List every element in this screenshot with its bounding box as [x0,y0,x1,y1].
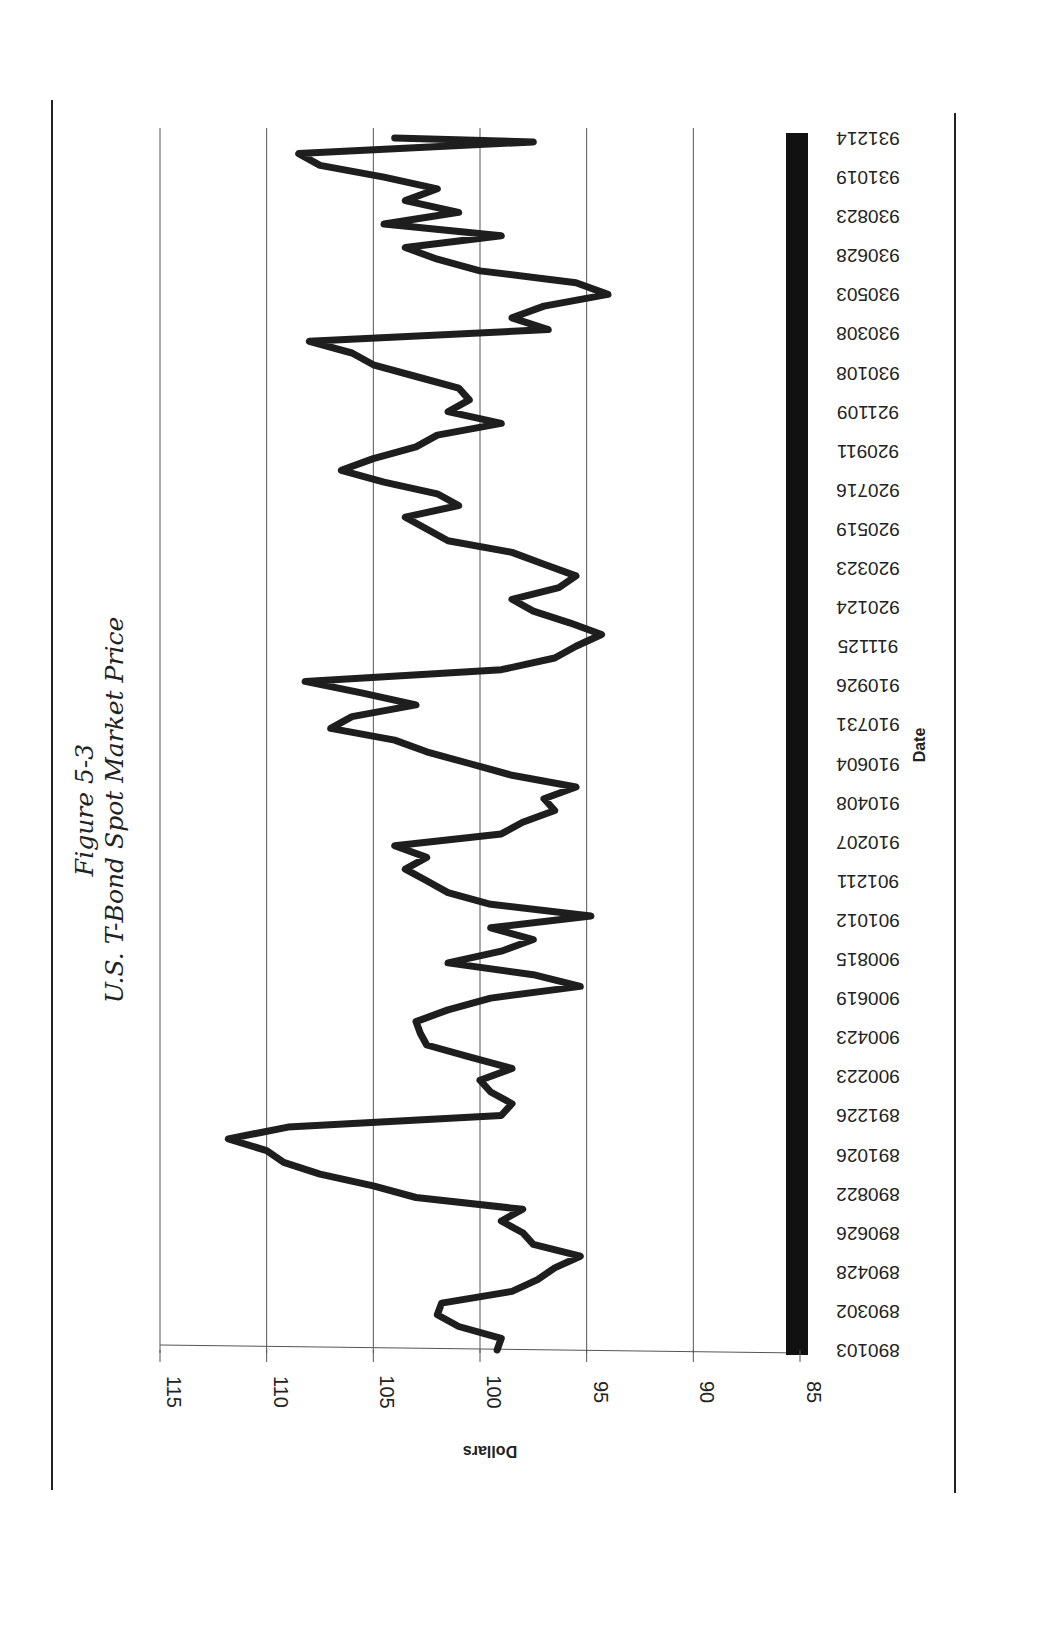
date-tick-label: 890103 [836,1340,899,1361]
y-tick-label: 100 [483,1375,505,1408]
y-tick-label: 105 [376,1375,398,1408]
date-tick-label: 901211 [837,871,899,892]
date-tick-label: 890428 [836,1262,899,1283]
date-tick-label: 920519 [836,519,899,540]
date-tick-label: 921109 [837,402,899,423]
y-tick-label: 85 [803,1381,825,1403]
date-tick-label: 910926 [836,675,899,696]
date-tick-label: 890626 [836,1223,899,1244]
date-axis-bar [786,133,808,1355]
date-tick-label: 920716 [836,480,899,501]
line-chart: 8901038903028904288906268908228910268912… [0,0,1041,1651]
dollars-axis: 115110105100959085 [160,1350,825,1409]
date-tick-label: 920911 [837,441,899,462]
date-tick-label: 891226 [836,1105,899,1126]
date-tick-label: 890822 [836,1184,899,1205]
date-tick-label: 910731 [836,714,899,735]
date-tick-label: 891026 [836,1145,899,1166]
date-tick-label: 910207 [836,832,899,853]
date-tick-label: 900815 [836,949,899,970]
date-tick-label: 900223 [836,1066,899,1087]
date-tick-label: 890302 [836,1301,899,1322]
date-tick-label: 900619 [836,988,899,1009]
date-tick-label: 930823 [836,206,899,227]
price-line [228,138,608,1350]
y-tick-label: 110 [270,1376,292,1408]
date-axis: 8901038903028904288906268908228910268912… [786,128,900,1361]
x-axis-label: Date [911,728,928,763]
date-tick-label: 931019 [836,167,899,188]
date-tick-label: 920124 [836,597,900,618]
price-series [228,138,608,1350]
gridlines [160,128,800,1353]
y-tick-label: 90 [696,1381,718,1403]
date-tick-label: 901012 [836,910,899,931]
date-tick-label: 931214 [836,128,900,149]
y-tick-label: 115 [163,1376,185,1408]
date-tick-label: 930108 [836,363,899,384]
y-tick-label: 95 [590,1381,612,1403]
date-tick-label: 920323 [836,558,899,579]
date-tick-label: 911125 [838,636,899,657]
date-tick-label: 900423 [836,1027,899,1048]
y-axis-label: Dollars [463,1443,517,1460]
date-tick-label: 930308 [836,323,899,344]
date-tick-label: 910408 [836,793,899,814]
date-tick-label: 930503 [836,284,899,305]
date-tick-label: 910604 [836,754,900,775]
date-tick-label: 930628 [836,245,899,266]
